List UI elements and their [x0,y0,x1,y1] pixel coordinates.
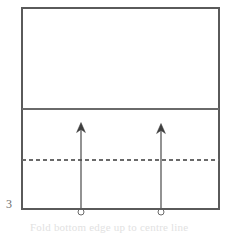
folding-diagram: 3 Fold bottom edge up to centre line [0,0,225,233]
figure-caption: Fold bottom edge up to centre line [30,222,220,233]
fold-arrow-right-base-loop [158,209,164,215]
figure-caption-text: Fold bottom edge up to centre line [30,222,188,233]
diagram-canvas [0,0,225,233]
fold-arrow-left-base-loop [78,209,84,215]
step-number-label: 3 [2,195,16,213]
